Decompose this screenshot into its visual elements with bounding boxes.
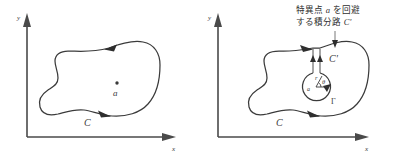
radius-label: r	[315, 74, 318, 81]
corridor-line-left	[310, 49, 316, 73]
left-point-a-marker	[115, 81, 118, 84]
left-contour-arrow-bottom	[98, 111, 111, 118]
annotation-line-2-var: C'	[344, 17, 352, 27]
corridor-line-right	[317, 49, 323, 73]
left-contour-curve	[39, 41, 160, 116]
left-x-axis	[27, 133, 176, 141]
annotation-line-2: する積分路 C'	[296, 16, 351, 27]
right-y-axis-label: y	[207, 14, 212, 22]
left-contour-label: C	[84, 117, 91, 128]
annotation-line-2-pre: する積分路	[296, 16, 344, 27]
annotation-leader	[332, 31, 338, 48]
left-x-axis-label: x	[171, 145, 176, 153]
left-y-axis-label: y	[16, 14, 21, 22]
left-panel: a C y x	[0, 0, 196, 160]
right-y-axis	[214, 13, 222, 137]
right-contour-arrow-bottom	[307, 111, 320, 118]
right-contour-label: C	[276, 117, 283, 128]
right-contour-curve	[248, 41, 369, 116]
right-x-axis	[218, 133, 369, 141]
annotation-line-1-pre: 特異点	[296, 4, 326, 15]
annotation-line-1-post: を回避	[330, 4, 360, 15]
angle-label: θ	[322, 78, 326, 85]
annotation-line-1: 特異点 a を回避	[296, 4, 360, 15]
right-x-axis-label: x	[364, 145, 369, 153]
figure-container: a C y x	[0, 0, 393, 160]
right-panel: r θ a Γ C' C y x 特異点 a を回避 する積分路 C'	[196, 0, 393, 160]
corridor-label: C'	[329, 53, 339, 64]
left-y-axis	[23, 13, 31, 137]
left-contour-arrow-top	[104, 45, 117, 52]
right-point-a-label: a	[307, 86, 310, 92]
gamma-label: Γ	[331, 97, 336, 106]
left-point-a-label: a	[113, 88, 118, 98]
